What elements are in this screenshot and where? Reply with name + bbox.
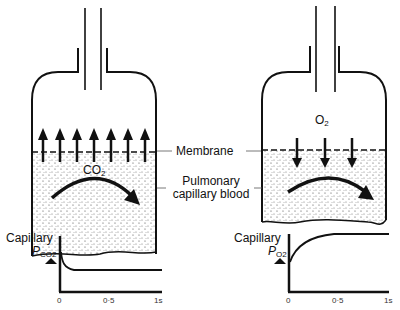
pco2-axis-label-line2: PCO2 — [6, 245, 56, 261]
pco2-tick-1s: 1s — [154, 296, 162, 305]
pco2-tick-05: 0·5 — [103, 296, 115, 305]
pulmonary-capillary-blood-label: Pulmonary capillary blood — [163, 175, 259, 201]
po2-axis-label: Capillary PO2 — [234, 232, 287, 261]
po2-tick-0: 0 — [286, 296, 290, 305]
po2-curve — [290, 234, 389, 262]
po2-tick-1s: 1s — [384, 296, 392, 305]
pco2-axis-label: Capillary PCO2 — [6, 232, 56, 261]
membrane-label: Membrane — [176, 145, 233, 158]
po2-axis-label-line2: PO2 — [234, 245, 287, 261]
po2-axis-label-line1: Capillary — [234, 232, 287, 245]
o2-label: O2 — [315, 114, 329, 130]
po2-tick-05: 0·5 — [332, 296, 344, 305]
co2-label: CO2 — [83, 164, 105, 180]
pulmonary-label-line2: capillary blood — [163, 188, 259, 201]
pco2-tick-0: 0 — [57, 296, 61, 305]
po2-graph — [274, 234, 389, 292]
left-alveolus — [32, 8, 156, 256]
